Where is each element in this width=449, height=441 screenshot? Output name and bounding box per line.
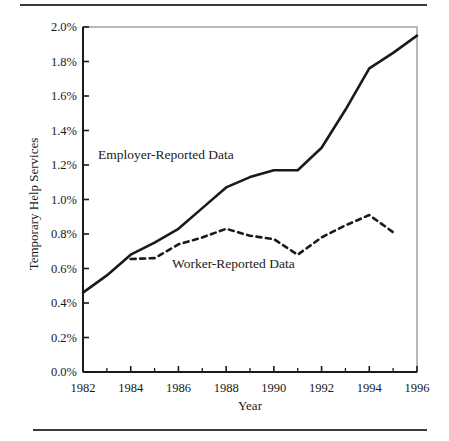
data-series-group <box>83 36 417 293</box>
y-tick-label: 1.8% <box>31 56 77 69</box>
axes-group <box>83 27 417 372</box>
x-axis-title: Year <box>83 398 417 414</box>
y-axis-title: Temporary Help Services <box>26 104 42 304</box>
y-tick-label: 0.2% <box>31 332 77 345</box>
figure-container: 0.0%0.2%0.4%0.6%0.8%1.0%1.2%1.4%1.6%1.8%… <box>0 0 449 441</box>
series-line-employer-reported-data <box>83 36 417 293</box>
series-line-worker-reported-data <box>131 215 393 259</box>
series-label-worker-reported: Worker-Reported Data <box>172 256 295 272</box>
axis-ticks-group <box>83 27 417 372</box>
series-label-employer-reported: Employer-Reported Data <box>98 147 234 163</box>
plot-frame <box>83 27 417 372</box>
y-tick-label: 2.0% <box>31 21 77 34</box>
y-tick-label: 0.0% <box>31 366 77 379</box>
y-tick-label: 1.6% <box>31 90 77 103</box>
x-tick-label: 1996 <box>387 382 447 395</box>
